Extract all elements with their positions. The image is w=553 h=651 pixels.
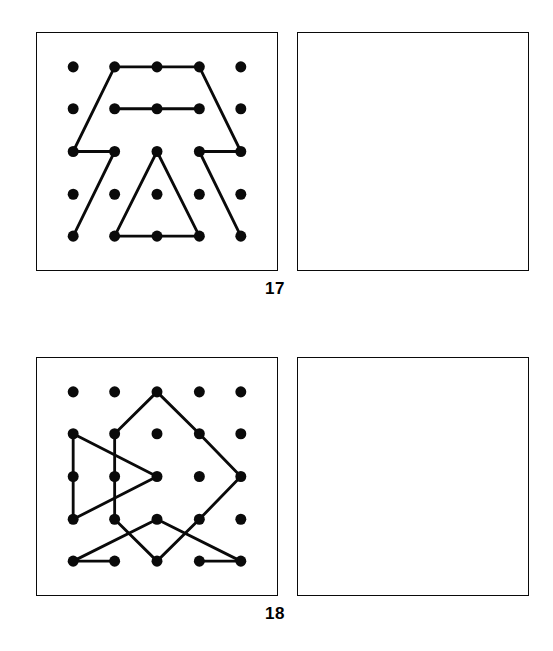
grid-dot: [68, 556, 79, 567]
grid-dot: [109, 428, 120, 439]
pattern-segment: [157, 519, 199, 561]
pattern-segment: [199, 434, 240, 477]
grid-dot: [194, 146, 205, 157]
pattern-segment: [73, 152, 114, 237]
answer-box-17[interactable]: [297, 32, 529, 271]
grid-dot: [235, 428, 246, 439]
grid-dot: [109, 386, 120, 397]
grid-dot: [152, 428, 163, 439]
grid-dot: [235, 556, 246, 567]
grid-dot: [68, 471, 79, 482]
grid-dot: [235, 231, 246, 242]
grid-dot: [235, 61, 246, 72]
grid-dot: [235, 514, 246, 525]
worksheet-page: 17 18: [0, 0, 553, 651]
grid-dot: [68, 386, 79, 397]
pattern-segment: [115, 392, 157, 434]
grid-dot: [235, 386, 246, 397]
exercise-number-17: 17: [265, 280, 325, 297]
grid-dot: [194, 231, 205, 242]
pattern-segment: [115, 519, 157, 561]
grid-dot: [109, 514, 120, 525]
grid-dot: [194, 103, 205, 114]
pattern-svg-18: [37, 358, 277, 595]
grid-dot: [68, 231, 79, 242]
grid-dot: [235, 103, 246, 114]
grid-dot: [68, 428, 79, 439]
pattern-segment: [199, 477, 240, 520]
grid-dots: [68, 386, 247, 566]
grid-dot: [194, 189, 205, 200]
exercise-18: 18: [0, 325, 553, 651]
grid-dot: [68, 61, 79, 72]
grid-dot: [68, 103, 79, 114]
pattern-segment: [115, 152, 157, 237]
pattern-svg-17: [37, 33, 277, 270]
grid-dot: [152, 386, 163, 397]
pattern-segment: [73, 67, 114, 152]
pattern-segment: [199, 67, 240, 152]
grid-dot: [109, 103, 120, 114]
grid-dot: [194, 428, 205, 439]
grid-dot: [109, 231, 120, 242]
grid-dot: [152, 471, 163, 482]
grid-dot: [152, 61, 163, 72]
grid-dot: [109, 556, 120, 567]
grid-dot: [152, 189, 163, 200]
exercise-17: 17: [0, 0, 553, 325]
pattern-segment: [73, 519, 157, 561]
grid-dot: [194, 471, 205, 482]
pattern-segment: [199, 152, 240, 237]
grid-dot: [109, 471, 120, 482]
pattern-grid-17: [36, 32, 278, 271]
pattern-segment: [157, 519, 241, 561]
grid-dot: [109, 189, 120, 200]
grid-dot: [152, 103, 163, 114]
grid-dot: [194, 386, 205, 397]
grid-dot: [109, 146, 120, 157]
pattern-segment: [157, 392, 199, 434]
pattern-segment: [157, 152, 199, 237]
grid-dot: [68, 189, 79, 200]
grid-dot: [68, 146, 79, 157]
grid-dot: [152, 146, 163, 157]
grid-dot: [109, 61, 120, 72]
grid-dot: [235, 471, 246, 482]
grid-dot: [194, 61, 205, 72]
answer-box-18[interactable]: [297, 357, 529, 596]
grid-dot: [194, 514, 205, 525]
exercise-number-18: 18: [265, 605, 325, 622]
grid-dot: [152, 231, 163, 242]
grid-dot: [68, 514, 79, 525]
grid-dot: [235, 189, 246, 200]
grid-dot: [152, 514, 163, 525]
pattern-grid-18: [36, 357, 278, 596]
grid-dot: [152, 556, 163, 567]
grid-dot: [235, 146, 246, 157]
grid-dot: [194, 556, 205, 567]
